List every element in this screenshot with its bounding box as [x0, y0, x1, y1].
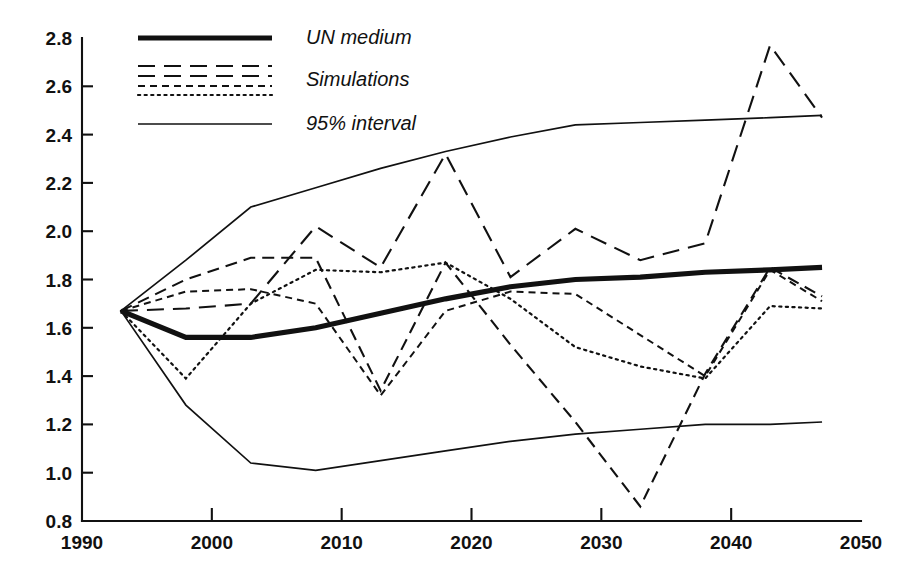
legend-item-95-interval: 95% interval: [138, 112, 417, 134]
y-tick-label: 2.6: [46, 76, 72, 97]
series-layer: [121, 45, 822, 506]
chart-container: 0.81.01.21.41.61.82.02.22.42.62.8 199020…: [0, 0, 909, 575]
y-axis-ticks: 0.81.01.21.41.61.82.02.22.42.62.8: [46, 28, 93, 532]
y-tick-label: 2.4: [46, 125, 73, 146]
legend-item-un-medium: UN medium: [138, 26, 412, 48]
x-tick-label: 2050: [840, 532, 882, 553]
legend-label: UN medium: [306, 26, 412, 48]
x-tick-label: 2030: [580, 532, 622, 553]
x-tick-label: 1990: [61, 532, 103, 553]
y-tick-label: 2.2: [46, 173, 72, 194]
y-tick-label: 1.6: [46, 318, 72, 339]
x-tick-label: 2010: [321, 532, 363, 553]
series-95-interval-upper: [121, 115, 822, 311]
y-tick-label: 1.0: [46, 463, 72, 484]
series-95-interval-lower: [121, 311, 822, 470]
y-tick-label: 0.8: [46, 511, 72, 532]
legend-item-simulations: Simulations: [138, 66, 409, 95]
legend-label: Simulations: [306, 68, 409, 90]
y-tick-label: 2.8: [46, 28, 72, 49]
chart-legend: UN mediumSimulations95% interval: [138, 26, 417, 134]
y-tick-label: 1.4: [46, 366, 73, 387]
y-tick-label: 2.0: [46, 221, 72, 242]
legend-label: 95% interval: [306, 112, 417, 134]
x-tick-label: 2020: [450, 532, 492, 553]
x-tick-label: 2040: [710, 532, 752, 553]
y-tick-label: 1.8: [46, 270, 72, 291]
series-simulation-4: [121, 263, 822, 379]
x-axis-ticks: 1990200020102020203020402050: [61, 508, 882, 553]
y-tick-label: 1.2: [46, 414, 72, 435]
fertility-projection-chart: 0.81.01.21.41.61.82.02.22.42.62.8 199020…: [0, 0, 909, 575]
x-tick-label: 2000: [191, 532, 233, 553]
